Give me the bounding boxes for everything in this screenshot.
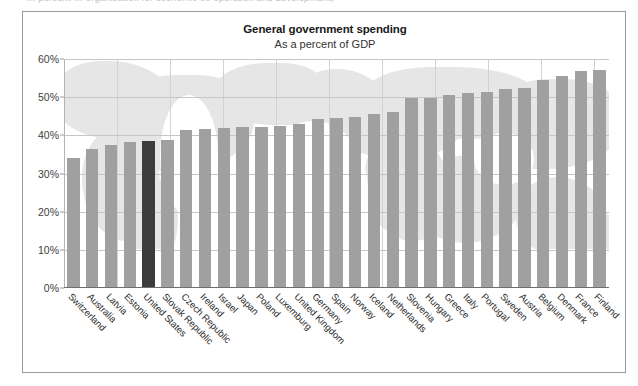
- bar-netherlands[interactable]: [387, 112, 399, 288]
- bar-israel[interactable]: [218, 128, 230, 288]
- y-axis-tick-label: 0%: [44, 282, 59, 294]
- y-axis-tick-label: 50%: [38, 91, 59, 103]
- bar-norway[interactable]: [349, 117, 361, 288]
- bar-united-kingdom[interactable]: [293, 124, 305, 288]
- y-axis-tick-label: 30%: [38, 168, 59, 180]
- page-body-text-line: … percent … organisation for economic co…: [26, 0, 616, 3]
- bar-spain[interactable]: [330, 118, 342, 288]
- plot-area: 0%10%20%30%40%50%60%: [64, 59, 609, 288]
- bar-czech-republic[interactable]: [180, 130, 192, 288]
- x-axis-labels: SwitzerlandAustraliaLatviaEstoniaUnited …: [64, 288, 624, 383]
- bar-switzerland[interactable]: [67, 158, 79, 288]
- bar-france[interactable]: [575, 71, 587, 288]
- bar-finland[interactable]: [593, 70, 605, 288]
- chart-frame: General government spending As a percent…: [22, 11, 626, 373]
- bar-slovenia[interactable]: [405, 98, 417, 288]
- bar-australia[interactable]: [86, 149, 98, 288]
- bar-sweden[interactable]: [499, 89, 511, 288]
- bar-slovak-republic[interactable]: [161, 140, 173, 288]
- bar-united-states[interactable]: [142, 141, 154, 288]
- bar-series: [64, 59, 609, 288]
- bar-latvia[interactable]: [105, 145, 117, 288]
- page-body-text-fragment: … percent … organisation for economic co…: [0, 0, 638, 10]
- bar-belgium[interactable]: [537, 80, 549, 288]
- bar-poland[interactable]: [255, 127, 267, 288]
- y-axis-tick-label: 10%: [38, 244, 59, 256]
- bar-ireland[interactable]: [199, 129, 211, 288]
- bar-luxemburg[interactable]: [274, 126, 286, 288]
- bar-germany[interactable]: [312, 119, 324, 288]
- figure-screenshot: … percent … organisation for economic co…: [0, 0, 638, 386]
- chart-title: General government spending: [23, 23, 627, 35]
- bar-denmark[interactable]: [556, 76, 568, 288]
- bar-hungary[interactable]: [424, 98, 436, 288]
- bar-japan[interactable]: [236, 127, 248, 288]
- y-axis-tick-label: 60%: [38, 53, 59, 65]
- bar-austria[interactable]: [518, 88, 530, 288]
- y-axis-tick-label: 20%: [38, 206, 59, 218]
- bar-portugal[interactable]: [481, 92, 493, 288]
- bar-iceland[interactable]: [368, 114, 380, 288]
- y-axis-tick-label: 40%: [38, 129, 59, 141]
- bar-greece[interactable]: [443, 95, 455, 288]
- bar-estonia[interactable]: [124, 142, 136, 288]
- bar-italy[interactable]: [462, 93, 474, 288]
- chart-subtitle: As a percent of GDP: [23, 38, 627, 50]
